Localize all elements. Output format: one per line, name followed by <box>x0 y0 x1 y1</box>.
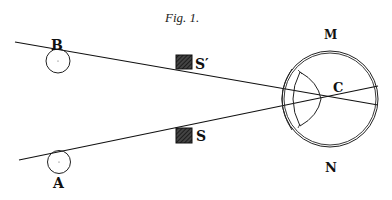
screen-s-prime <box>176 55 192 69</box>
label-b: B <box>51 37 63 53</box>
ray-a <box>19 86 378 160</box>
figure-title: Fig. 1. <box>164 10 199 25</box>
eye-diagram: Fig. 1. B A S′ S M N C <box>0 0 392 200</box>
label-s-prime: S′ <box>195 56 209 72</box>
label-n: N <box>325 160 337 175</box>
lens-front <box>293 72 300 126</box>
eyeball <box>282 51 378 147</box>
label-c: C <box>333 80 343 95</box>
label-a: A <box>52 175 65 191</box>
cornea <box>282 69 292 130</box>
label-m: M <box>324 28 337 42</box>
label-s: S <box>196 128 206 144</box>
screen-s <box>176 128 192 143</box>
